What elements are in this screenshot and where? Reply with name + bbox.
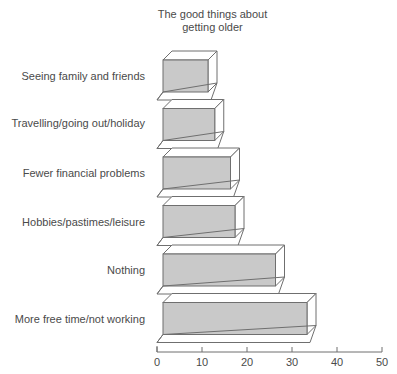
bar-front-face xyxy=(163,206,235,238)
bar-5 xyxy=(157,294,316,343)
bar-front-face xyxy=(163,60,208,92)
bar-top-face xyxy=(163,294,316,303)
bar-top-face xyxy=(163,245,285,254)
bar-front-face xyxy=(163,109,215,141)
x-axis-tick-labels: 0 10 20 30 40 50 xyxy=(0,356,397,372)
x-tick-label-0: 0 xyxy=(145,356,169,368)
bar-chart: The good things about getting older Seei… xyxy=(0,0,397,374)
bar-front-face xyxy=(163,157,231,189)
bar-0 xyxy=(157,51,217,100)
bar-2 xyxy=(157,148,240,197)
x-tick-label-5: 50 xyxy=(370,356,394,368)
bar-top-face xyxy=(163,100,224,109)
bar-top-face xyxy=(163,197,244,206)
plot-area xyxy=(0,0,397,374)
bar-top-face xyxy=(163,148,240,157)
bar-4 xyxy=(157,245,285,294)
bar-front-face xyxy=(163,303,307,335)
x-axis xyxy=(157,346,382,352)
x-tick-label-3: 30 xyxy=(280,356,304,368)
bars-group xyxy=(157,51,316,343)
bar-front-face xyxy=(163,254,276,286)
bar-1 xyxy=(157,100,224,149)
x-tick-label-4: 40 xyxy=(325,356,349,368)
x-tick-label-2: 20 xyxy=(235,356,259,368)
x-tick-label-1: 10 xyxy=(190,356,214,368)
bar-3 xyxy=(157,197,244,246)
